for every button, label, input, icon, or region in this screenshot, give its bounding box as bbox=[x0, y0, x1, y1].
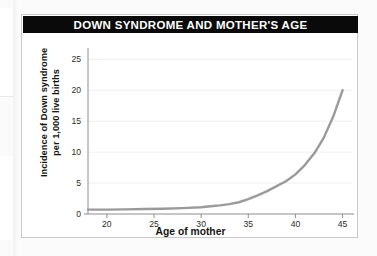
x-tick-label: 30 bbox=[189, 219, 213, 229]
x-tick-label: 25 bbox=[142, 219, 166, 229]
y-tick-label: 15 bbox=[61, 116, 81, 126]
x-tick-label: 40 bbox=[283, 219, 307, 229]
y-tick-label: 20 bbox=[61, 85, 81, 95]
chart-card: DOWN SYNDROME AND MOTHER'S AGE Incidence… bbox=[21, 14, 358, 238]
y-tick-label: 25 bbox=[61, 54, 81, 64]
x-tick-label: 45 bbox=[331, 219, 355, 229]
chart-title: DOWN SYNDROME AND MOTHER'S AGE bbox=[74, 19, 308, 31]
y-tick-label: 10 bbox=[61, 147, 81, 157]
chart-title-bar: DOWN SYNDROME AND MOTHER'S AGE bbox=[23, 16, 358, 33]
page-edge-artifact-bottom bbox=[0, 156, 14, 240]
y-tick-label: 5 bbox=[61, 178, 81, 188]
x-tick-label: 35 bbox=[236, 219, 260, 229]
x-tick-label: 20 bbox=[95, 219, 119, 229]
plot-area: Incidence of Down syndrome per 1,000 liv… bbox=[22, 33, 359, 239]
page-edge-artifact-strip bbox=[13, 0, 20, 256]
y-tick-label: 0 bbox=[61, 209, 81, 219]
